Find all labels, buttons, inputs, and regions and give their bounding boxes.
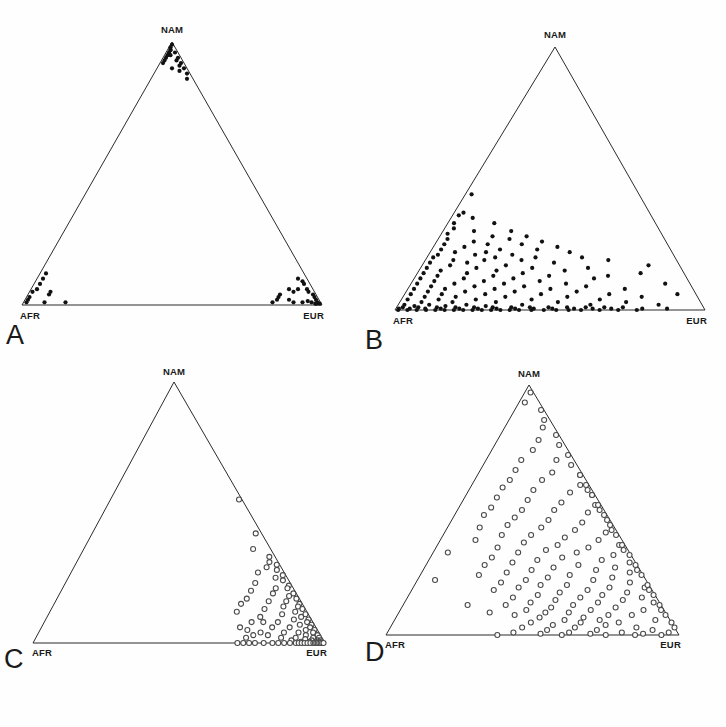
panel-d-plot: NAM AFR EUR [363, 363, 726, 727]
data-point [640, 307, 644, 311]
data-point [510, 595, 515, 600]
data-point [666, 630, 671, 635]
data-point [538, 279, 542, 283]
panel-a-triangle [22, 42, 322, 305]
data-point [265, 633, 270, 638]
data-point [607, 292, 611, 296]
data-point [620, 598, 625, 603]
data-point [41, 277, 45, 281]
data-point [535, 247, 539, 251]
data-point [552, 261, 556, 265]
data-point [574, 550, 579, 555]
data-point [182, 66, 186, 70]
data-point [482, 563, 487, 568]
data-point [476, 307, 480, 311]
data-point [472, 284, 476, 288]
data-point [462, 276, 466, 280]
data-point [555, 245, 559, 249]
data-point [512, 613, 517, 618]
data-point [495, 545, 500, 550]
data-point [598, 297, 602, 301]
data-point [484, 304, 488, 308]
data-point [572, 625, 577, 630]
data-point [300, 300, 304, 304]
data-point [302, 282, 306, 286]
data-point [472, 229, 476, 233]
data-point [594, 628, 599, 633]
data-point [599, 558, 604, 563]
data-point [168, 48, 172, 52]
data-point [309, 300, 313, 304]
data-point [584, 284, 588, 288]
data-point [474, 266, 478, 270]
data-point [270, 300, 274, 304]
data-point [653, 618, 658, 623]
data-point [511, 276, 515, 280]
data-point [445, 550, 450, 555]
data-point [627, 560, 632, 565]
data-point [473, 538, 478, 543]
data-point [437, 297, 441, 301]
data-point [516, 550, 521, 555]
data-point [669, 620, 674, 625]
data-point [270, 591, 275, 596]
data-point [446, 232, 450, 236]
data-point [489, 505, 494, 510]
data-point [35, 287, 39, 291]
data-point [535, 558, 540, 563]
data-point [550, 470, 555, 475]
data-point [542, 308, 546, 312]
panel-b-label-eur: EUR [686, 315, 707, 326]
data-point [412, 304, 416, 308]
data-point [634, 625, 639, 630]
data-point [435, 274, 439, 278]
data-point [530, 297, 534, 301]
data-point [503, 295, 507, 299]
data-point [415, 282, 419, 286]
data-point [566, 610, 571, 615]
data-point [287, 625, 292, 630]
data-point [548, 287, 552, 291]
data-point [296, 277, 300, 281]
data-point [291, 300, 295, 304]
data-point [504, 570, 509, 575]
panel-b-plot: NAM AFR EUR [363, 0, 726, 364]
data-point [452, 308, 456, 312]
data-point [249, 588, 254, 593]
data-point [463, 289, 467, 293]
data-point [639, 595, 644, 600]
data-point [565, 295, 569, 299]
data-point [550, 623, 555, 628]
panel-c-label-eur: EUR [306, 647, 327, 658]
data-point [476, 573, 481, 578]
data-point [499, 580, 504, 585]
data-point [247, 641, 252, 646]
data-point [482, 279, 486, 283]
data-point [641, 631, 646, 636]
data-point [161, 61, 165, 65]
data-point [296, 287, 300, 291]
data-point [672, 625, 677, 630]
data-point [584, 483, 589, 488]
data-point [251, 547, 256, 552]
data-point [439, 307, 443, 311]
data-point [580, 255, 584, 259]
data-point [433, 308, 437, 312]
data-point [546, 518, 551, 523]
data-point [457, 307, 461, 311]
data-point [533, 255, 537, 259]
data-point [509, 229, 513, 233]
data-point [418, 276, 422, 280]
data-point [557, 590, 562, 595]
data-point [462, 245, 466, 249]
data-point [520, 303, 524, 307]
data-point [502, 282, 506, 286]
data-point [517, 308, 521, 312]
data-point [294, 596, 299, 601]
data-point [536, 438, 541, 443]
data-point [562, 535, 567, 540]
data-point [520, 625, 525, 630]
data-point [401, 305, 405, 309]
data-point [621, 548, 626, 553]
data-point [174, 58, 178, 62]
